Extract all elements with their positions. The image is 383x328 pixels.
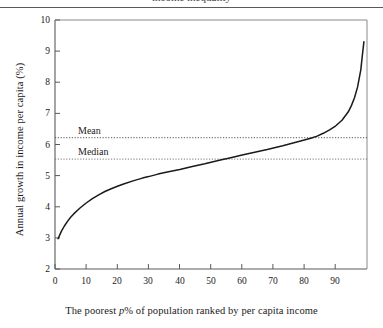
y-tick-label-3: 3 [26,233,50,243]
growth-incidence-curve [58,42,364,239]
x-tick-label-20: 20 [102,276,132,286]
x-tick-label-90: 90 [320,276,350,286]
median-line-label: Median [78,146,109,157]
x-tick-label-30: 30 [133,276,163,286]
y-tick-label-8: 8 [26,77,50,87]
y-tick-label-7: 7 [26,108,50,118]
x-tick-label-70: 70 [258,276,288,286]
y-tick-label-10: 10 [26,15,50,25]
x-axis-title-part1: The poorest [65,305,119,316]
x-tick-label-0: 0 [40,276,70,286]
x-tick-label-80: 80 [289,276,319,286]
x-axis-title-part2: % of population ranked by per capita inc… [124,305,318,316]
x-tick-label-40: 40 [165,276,195,286]
y-tick-label-2: 2 [26,264,50,274]
x-tick-label-60: 60 [227,276,257,286]
x-tick-label-10: 10 [71,276,101,286]
axes-frame [55,20,367,269]
y-tick-label-5: 5 [26,171,50,181]
y-axis-title: Annual growth in income per capita (%) [14,25,25,275]
x-axis-ticks [55,264,335,269]
y-tick-label-9: 9 [26,46,50,56]
figure-container: income inequality [0,0,383,328]
y-tick-label-6: 6 [26,140,50,150]
x-axis-title: The poorest p% of population ranked by p… [0,305,383,316]
y-axis-ticks [55,20,60,269]
y-tick-label-4: 4 [26,202,50,212]
x-tick-label-50: 50 [196,276,226,286]
mean-line-label: Mean [78,125,101,136]
